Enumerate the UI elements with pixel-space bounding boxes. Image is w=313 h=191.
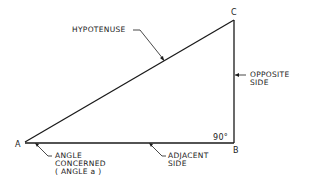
triangle-diagram	[0, 0, 313, 191]
angle-leader	[36, 144, 52, 156]
right-angle-label: 90°	[213, 134, 228, 142]
hypotenuse-line	[25, 20, 234, 142]
adjacent-side-label: ADJACENT SIDE	[168, 152, 209, 168]
opposite-side-label: OPPOSITE SIDE	[250, 71, 290, 87]
vertex-c-label: C	[231, 8, 237, 17]
hypotenuse-label: HYPOTENUSE	[72, 26, 126, 34]
hypotenuse-leader	[133, 30, 164, 60]
hypotenuse-arrowhead	[160, 56, 164, 61]
opposite-label-line2: SIDE	[250, 79, 290, 87]
vertex-a-label: A	[15, 140, 20, 149]
vertex-b-label: B	[233, 146, 239, 155]
angle-label-line3: ( ANGLE a )	[55, 168, 106, 176]
adjacent-leader	[150, 144, 166, 156]
angle-concerned-label: ANGLE CONCERNED ( ANGLE a )	[55, 152, 106, 176]
opposite-arrowhead	[235, 73, 239, 77]
adjacent-label-line2: SIDE	[168, 160, 209, 168]
